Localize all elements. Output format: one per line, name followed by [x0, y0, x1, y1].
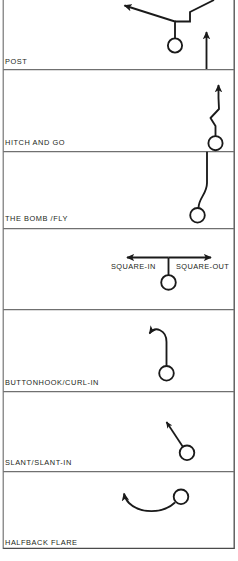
route-tree-figure: POST HITCH AND GO THE BOMB /FLY BUTTONHO…	[0, 0, 238, 561]
route-label-hitch-and-go: HITCH AND GO	[5, 138, 65, 147]
receiver-marker-post-upper	[168, 38, 182, 52]
receiver-marker-bomb-fly	[190, 208, 205, 223]
route-label-slant-slant-in: SLANT/SLANT-IN	[5, 458, 72, 467]
receiver-marker-halfback-flare	[174, 490, 189, 505]
route-path-slant	[167, 422, 184, 447]
route-path-buttonhook	[150, 329, 167, 366]
route-path-halfback-flare	[124, 494, 175, 512]
receiver-marker-buttonhook	[159, 366, 174, 381]
route-path-bomb-fly	[199, 152, 208, 208]
receiver-marker-slant	[180, 446, 195, 461]
route-diagram-canvas	[0, 0, 238, 561]
route-label-halfback-flare: HALFBACK FLARE	[5, 538, 78, 547]
route-label-square-in: SQUARE-IN	[111, 262, 156, 271]
route-label-post: POST	[5, 57, 27, 66]
route-path-post-upper	[125, 0, 215, 39]
route-label-square-out: SQUARE-OUT	[176, 262, 229, 271]
route-label-the-bomb-fly: THE BOMB /FLY	[5, 214, 68, 223]
receiver-marker-hitch-and-go	[208, 136, 222, 150]
receiver-marker-square-in-out	[161, 275, 176, 290]
route-label-buttonhook-curl-in: BUTTONHOOK/CURL-IN	[5, 378, 99, 387]
route-path-hitch-and-go	[211, 85, 220, 136]
